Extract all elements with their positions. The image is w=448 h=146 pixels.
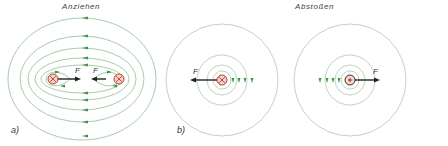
conductor-dot	[345, 75, 355, 85]
panel-attraction: Anziehen a)	[0, 0, 160, 146]
field-arrowheads	[55, 17, 117, 138]
panel-repulsion: Abstoßen b) F F	[160, 0, 448, 146]
conductor-cross-right	[114, 74, 124, 84]
force-label: F	[373, 67, 379, 76]
force-label: F	[93, 66, 99, 75]
conductor-cross-left	[48, 74, 58, 84]
attraction-field-diagram: F F	[0, 0, 160, 146]
field-arrowheads	[232, 78, 341, 83]
force-label: F	[75, 66, 81, 75]
field-lines	[8, 18, 156, 140]
conductor-cross	[217, 75, 227, 85]
repulsion-field-diagram: F F	[160, 0, 448, 146]
